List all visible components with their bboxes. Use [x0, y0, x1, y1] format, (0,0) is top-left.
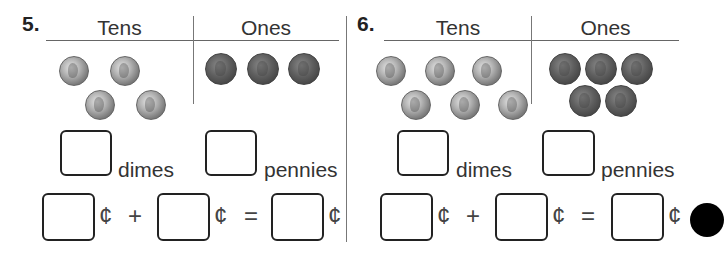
- penny-coin-icon: [569, 85, 601, 117]
- problem-6-pennies-answer-box[interactable]: [542, 130, 595, 176]
- problem-6-dimes-answer-box[interactable]: [397, 130, 449, 176]
- problem-6-term1-box[interactable]: [380, 193, 433, 241]
- dime-coin-icon: [110, 56, 140, 86]
- problem-5-pennies-label: pennies: [264, 158, 338, 182]
- dime-coin-icon: [498, 90, 528, 120]
- problem-5-tens-header: Tens: [46, 16, 193, 40]
- penny-coin-icon: [288, 53, 320, 85]
- plus-sign: +: [466, 202, 480, 230]
- dime-coin-icon: [425, 56, 455, 86]
- cent-sign: ¢: [99, 202, 112, 230]
- penny-coin-icon: [247, 53, 279, 85]
- problem-5-term2-box[interactable]: [157, 193, 210, 241]
- cent-sign: ¢: [328, 202, 341, 230]
- dime-coin-icon: [136, 90, 166, 120]
- problem-5-dimes-label: dimes: [118, 158, 174, 182]
- problem-divider: [346, 16, 347, 242]
- cent-sign: ¢: [668, 202, 681, 230]
- dime-coin-icon: [59, 56, 89, 86]
- problem-6-dimes-label: dimes: [456, 158, 512, 182]
- problem-6-number: 6.: [357, 12, 375, 36]
- problem-6-pennies-label: pennies: [601, 158, 675, 182]
- problem-5-number: 5.: [22, 12, 40, 36]
- penny-coin-icon: [549, 53, 581, 85]
- dime-coin-icon: [472, 56, 502, 86]
- cent-sign: ¢: [214, 202, 227, 230]
- penny-coin-icon: [605, 85, 637, 117]
- dime-coin-icon: [85, 90, 115, 120]
- problem-6-tens-header: Tens: [384, 16, 532, 40]
- plus-sign: +: [128, 202, 142, 230]
- problem-6-term2-box[interactable]: [495, 193, 548, 241]
- penny-coin-icon: [621, 53, 653, 85]
- equals-sign: =: [244, 202, 258, 230]
- problem-5-total-box[interactable]: [271, 193, 324, 241]
- problem-6-total-box[interactable]: [611, 193, 664, 241]
- black-circle-marker-icon: [690, 203, 724, 237]
- penny-coin-icon: [585, 53, 617, 85]
- problem-6-place-value-divider: [531, 16, 532, 104]
- problem-5-ones-header: Ones: [193, 16, 339, 40]
- problem-5-pennies-answer-box[interactable]: [205, 130, 257, 176]
- penny-coin-icon: [205, 53, 237, 85]
- dime-coin-icon: [401, 90, 431, 120]
- dime-coin-icon: [450, 90, 480, 120]
- cent-sign: ¢: [437, 202, 450, 230]
- problem-5-term1-box[interactable]: [42, 193, 95, 241]
- problem-5-dimes-answer-box[interactable]: [60, 130, 112, 176]
- problem-5-place-value-divider: [193, 16, 194, 104]
- dime-coin-icon: [376, 56, 406, 86]
- equals-sign: =: [581, 202, 595, 230]
- problem-6-ones-header: Ones: [532, 16, 679, 40]
- cent-sign: ¢: [552, 202, 565, 230]
